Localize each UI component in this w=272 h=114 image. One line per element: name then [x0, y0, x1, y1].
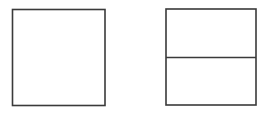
diagram-canvas [0, 0, 272, 114]
figures-svg [0, 0, 272, 114]
figure-divided-square[interactable] [166, 9, 256, 105]
undivided-square-outline[interactable] [13, 10, 106, 106]
figure-undivided-square[interactable] [13, 10, 106, 106]
